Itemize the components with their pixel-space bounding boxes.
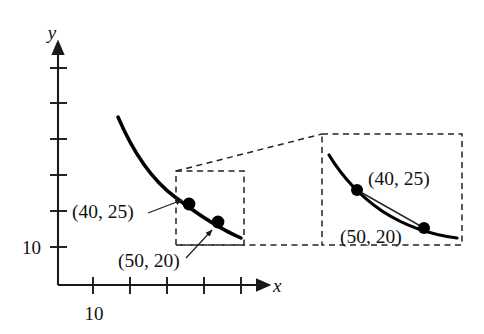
main-curve-group bbox=[118, 117, 241, 238]
y-tick-label-10: 10 bbox=[22, 237, 41, 258]
leader-line-40-25 bbox=[148, 200, 182, 213]
x-tick-label-10: 10 bbox=[85, 303, 104, 324]
label-point-50-20-main: (50, 20) bbox=[118, 250, 180, 272]
zoom-connector-top bbox=[176, 134, 322, 171]
label-point-50-20-inset: (50, 20) bbox=[340, 226, 402, 248]
y-axis-label: y bbox=[46, 22, 57, 43]
magnification-region-group bbox=[176, 134, 322, 245]
x-axis-label: x bbox=[272, 275, 282, 296]
data-point-50-20 bbox=[212, 216, 225, 229]
inset-secant-line bbox=[357, 190, 424, 228]
label-point-40-25-main: (40, 25) bbox=[72, 201, 134, 223]
calculus-zoom-figure: y x 10 10 (40, 25) (50, 20) bbox=[0, 0, 484, 334]
data-point-40-25 bbox=[183, 198, 196, 211]
inset-group: (40, 25) (50, 20) bbox=[322, 134, 462, 248]
label-point-40-25-inset: (40, 25) bbox=[368, 168, 430, 190]
inset-data-point-50-20 bbox=[418, 222, 430, 234]
leader-line-50-20 bbox=[186, 230, 212, 258]
figure-container: y x 10 10 (40, 25) (50, 20) bbox=[0, 0, 484, 334]
inset-data-point-40-25 bbox=[351, 184, 363, 196]
